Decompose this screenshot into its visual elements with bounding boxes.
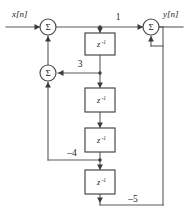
delay-block-3-exponent: -1 [102,135,107,141]
arrowhead-delay4-out [97,198,103,204]
arrowhead-coef5-to-sum3 [148,36,154,42]
junction-dot-forward-tap [98,25,101,28]
arrowhead-sum2-to-sum1 [45,36,51,42]
signal-flow-diagram: Σ Σ Σ z -1 z -1 z -1 z -1 x[n] y[n] 1 [0,0,189,220]
junction-dot-after-delay1 [98,71,101,74]
coefficient-label-tap1: 3 [78,59,83,69]
arrowhead-input-to-sum1 [35,24,41,30]
summer-output-label: Σ [148,22,153,32]
coefficient-label-tap3: –4 [66,148,77,158]
coefficient-label-tap4: –5 [127,194,138,204]
arrowhead-coef3-to-sum2 [58,70,64,76]
output-signal-label: y[n] [162,9,179,19]
diagram-canvas: Σ Σ Σ z -1 z -1 z -1 z -1 x[n] y[n] 1 [0,0,189,220]
input-signal-label: x[n] [11,9,28,19]
arrowhead-to-delay2 [97,83,103,89]
delay-block-4-exponent: -1 [102,177,107,183]
delay-block-2-exponent: -1 [102,95,107,101]
delay-block-1-exponent: -1 [102,39,107,45]
coefficient-label-direct: 1 [116,12,121,22]
arrowhead-coef4-to-sum2 [45,82,51,88]
arrowhead-to-delay3 [97,123,103,129]
summer-feedback-label: Σ [45,68,50,78]
arrowhead-to-delay4 [97,165,103,171]
arrowhead-forward-to-sum3 [138,24,144,30]
summer-input-label: Σ [45,22,50,32]
junction-dot-after-delay3 [98,158,101,161]
